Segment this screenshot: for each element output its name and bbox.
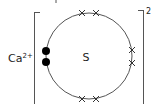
cation-label: Ca2+ [8, 52, 33, 65]
right-bracket [138, 10, 144, 104]
anion-charge: 2 [146, 7, 151, 16]
cation-charge: 2+ [22, 52, 32, 60]
anion-symbol: S [83, 51, 90, 64]
dot-electron-icon [42, 47, 50, 55]
dot-electron-icon [42, 58, 50, 66]
left-bracket [35, 12, 41, 104]
ionic-bond-diagram: Ca2+ 2 S [0, 0, 154, 104]
